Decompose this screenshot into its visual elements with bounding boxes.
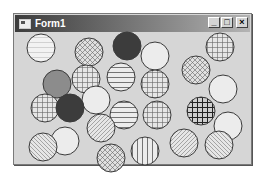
circle-vertical [131,137,159,165]
circle-fdiagonal [87,114,115,142]
circle-cross [206,33,234,61]
circle-cross [143,101,171,129]
circle-fdiagonal [170,129,198,157]
circles-canvas [0,0,266,189]
circle-diagcross [75,38,103,66]
circle-bdiagonal [205,131,233,159]
circle-cross [31,94,59,122]
circle-cross [141,70,169,98]
circle-empty [209,75,237,103]
circle-dark-solid [113,32,141,60]
circle-bdiagonal [29,133,57,161]
circle-dark-solid [56,94,84,122]
circle-diagcross [97,144,125,172]
circles-group [27,32,242,172]
circle-diagcross [182,56,210,84]
circle-horizontal-light [27,34,55,62]
circle-cross-bold [187,97,215,125]
circle-empty [82,86,110,114]
circle-horizontal [107,63,135,91]
circle-empty [141,42,169,70]
